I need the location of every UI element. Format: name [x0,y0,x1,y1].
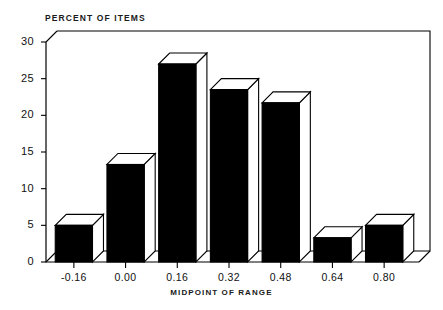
y-tick-label: 15 [8,145,34,157]
x-axis-title: MIDPOINT OF RANGE [0,288,443,297]
y-tick-label: 20 [8,108,34,120]
y-tick-label: 0 [8,255,34,267]
chart-plot-area [0,0,443,310]
bar [366,214,414,262]
bar [262,92,310,262]
bar-chart: PERCENT OF ITEMS 051015202530 -0.160.000… [0,0,443,310]
bar [159,53,207,262]
x-tick-label: 0.80 [354,271,414,283]
y-tick-label: 10 [8,182,34,194]
bars-layer [55,53,414,262]
y-tick-label: 30 [8,35,34,47]
bar [55,214,103,262]
bar [107,153,155,262]
bar [314,227,362,262]
y-tick-label: 25 [8,72,34,84]
y-tick-label: 5 [8,218,34,230]
bar [210,79,258,262]
